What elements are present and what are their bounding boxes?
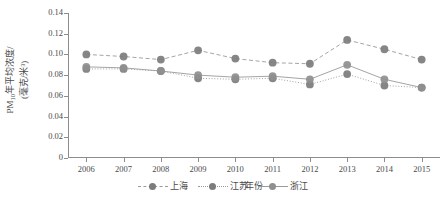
data-point-上海-2006 xyxy=(82,51,90,59)
legend-label: 浙江 xyxy=(290,181,308,191)
data-point-上海-2015 xyxy=(418,56,426,64)
x-tick-label-2007: 2007 xyxy=(115,164,132,174)
x-tick-label-2012: 2012 xyxy=(301,164,318,174)
x-tick-mark-2013 xyxy=(347,158,348,162)
data-point-浙江-2012 xyxy=(306,75,314,83)
data-point-浙江-2010 xyxy=(231,73,239,81)
y-tick-mark xyxy=(64,158,68,159)
y-tick-label: 0.02 xyxy=(48,131,63,142)
data-point-浙江-2008 xyxy=(157,67,165,75)
plot-area: 00.020.040.060.080.100.120.14 2006200720… xyxy=(68,13,440,158)
data-point-上海-2009 xyxy=(194,46,202,54)
series-line-上海 xyxy=(86,40,421,64)
legend-marker-icon xyxy=(198,181,228,191)
x-tick-label-2006: 2006 xyxy=(78,164,95,174)
x-tick-label-2011: 2011 xyxy=(264,164,281,174)
data-point-浙江-2011 xyxy=(269,72,277,80)
y-tick-label: 0 xyxy=(59,152,63,163)
x-tick-mark-2011 xyxy=(273,158,274,162)
pm10-concentration-line-chart: PM10年平均浓度/ (毫克/米³) 00.020.040.060.080.10… xyxy=(0,0,445,208)
legend-item-上海[interactable]: 上海 xyxy=(138,181,188,191)
legend-marker-icon xyxy=(138,181,168,191)
data-point-上海-2010 xyxy=(231,55,239,63)
series-line-江苏 xyxy=(86,69,421,88)
x-tick-label-2008: 2008 xyxy=(152,164,169,174)
data-point-上海-2011 xyxy=(269,59,277,67)
x-tick-mark-2014 xyxy=(384,158,385,162)
y-tick-label: 0.04 xyxy=(48,111,63,122)
y-tick-0: 0 xyxy=(68,158,69,159)
y-tick-label: 0.12 xyxy=(48,28,63,39)
legend-item-浙江[interactable]: 浙江 xyxy=(258,181,308,191)
y-axis-title-rest: 年平均浓度/ xyxy=(5,46,15,94)
legend-label: 上海 xyxy=(170,181,188,191)
x-tick-mark-2015 xyxy=(422,158,423,162)
y-axis-title: PM10年平均浓度/ (毫克/米³) xyxy=(2,0,32,160)
series-浙江 xyxy=(82,61,425,92)
data-point-浙江-2007 xyxy=(120,64,128,72)
x-tick-mark-2010 xyxy=(235,158,236,162)
y-tick-label: 0.10 xyxy=(48,48,63,59)
x-tick-label-2013: 2013 xyxy=(339,164,356,174)
y-axis-title-pm: PM xyxy=(5,100,15,113)
data-point-浙江-2006 xyxy=(82,63,90,71)
x-tick-label-2010: 2010 xyxy=(227,164,244,174)
legend-dot-icon xyxy=(149,183,156,190)
data-point-上海-2007 xyxy=(120,53,128,61)
data-point-浙江-2013 xyxy=(343,61,351,69)
legend-dot-icon xyxy=(209,183,216,190)
x-tick-mark-2006 xyxy=(86,158,87,162)
data-point-浙江-2014 xyxy=(381,75,389,83)
y-tick-label: 0.08 xyxy=(48,69,63,80)
legend-item-江苏[interactable]: 江苏 xyxy=(198,181,248,191)
legend-label: 江苏 xyxy=(230,181,248,191)
data-point-上海-2013 xyxy=(343,36,351,44)
data-point-上海-2008 xyxy=(157,56,165,64)
x-tick-mark-2009 xyxy=(198,158,199,162)
data-point-上海-2014 xyxy=(381,45,389,53)
legend-dot-icon xyxy=(269,183,276,190)
data-point-江苏-2013 xyxy=(343,70,351,78)
data-point-浙江-2015 xyxy=(418,84,426,92)
legend-marker-icon xyxy=(258,181,288,191)
y-axis-title-units: (毫克/米³) xyxy=(19,46,29,113)
x-tick-label-2009: 2009 xyxy=(190,164,207,174)
x-tick-mark-2007 xyxy=(124,158,125,162)
y-axis-title-subscript: 10 xyxy=(10,94,17,101)
data-point-上海-2012 xyxy=(306,60,314,68)
x-tick-label-2014: 2014 xyxy=(376,164,393,174)
series-line-浙江 xyxy=(86,65,421,88)
series-上海 xyxy=(82,36,425,68)
y-tick-label: 0.14 xyxy=(48,7,63,18)
x-tick-mark-2012 xyxy=(310,158,311,162)
series-plot-layer xyxy=(68,13,440,158)
chart-legend: 上海江苏浙江 xyxy=(0,181,445,191)
data-point-浙江-2009 xyxy=(194,71,202,79)
y-tick-label: 0.06 xyxy=(48,90,63,101)
x-tick-label-2015: 2015 xyxy=(413,164,430,174)
x-tick-mark-2008 xyxy=(161,158,162,162)
